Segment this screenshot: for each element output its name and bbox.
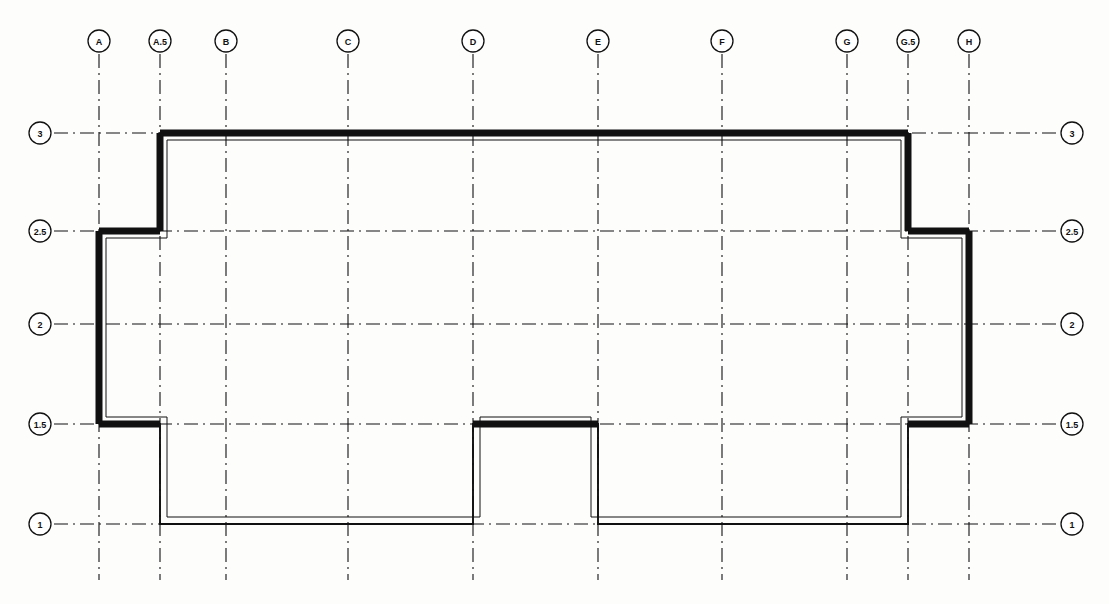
grid-bubble-row-left-1-5[interactable]: 1.5 — [29, 413, 51, 435]
grid-bubble-label: G — [843, 37, 850, 47]
grid-bubble-label: A — [96, 37, 103, 47]
floor-plan-canvas: AA.5BCDEFGG.5H 32.521.51 32.521.51 — [0, 0, 1109, 604]
grid-bubble-row-left-2-5[interactable]: 2.5 — [29, 220, 51, 242]
grid-bubble-label: 2.5 — [34, 227, 47, 237]
grid-bubble-label: C — [345, 37, 352, 47]
grid-bubble-label: 3 — [37, 129, 42, 139]
grid-bubble-column-A-5[interactable]: A.5 — [149, 30, 171, 52]
grid-bubble-label: A.5 — [153, 37, 167, 47]
grid-bubble-label: 1 — [37, 520, 42, 530]
grid-bubble-label: 3 — [1069, 129, 1074, 139]
grid-bubble-label: E — [595, 37, 601, 47]
grid-bubble-column-G-5[interactable]: G.5 — [897, 30, 919, 52]
grid-bubble-label: B — [223, 37, 230, 47]
grid-bubble-column-E[interactable]: E — [587, 30, 609, 52]
grid-bubble-label: 1.5 — [34, 420, 47, 430]
grid-bubble-column-C[interactable]: C — [337, 30, 359, 52]
grid-bubble-label: 2 — [37, 320, 42, 330]
grid-bubble-row-left-1[interactable]: 1 — [29, 513, 51, 535]
grid-bubble-row-right-2-5[interactable]: 2.5 — [1061, 220, 1083, 242]
grid-bubble-column-H[interactable]: H — [958, 30, 980, 52]
drawing-sheet-background — [0, 0, 1109, 604]
grid-bubble-column-D[interactable]: D — [462, 30, 484, 52]
grid-bubble-label: D — [470, 37, 477, 47]
grid-bubble-label: F — [719, 37, 725, 47]
grid-bubble-column-B[interactable]: B — [215, 30, 237, 52]
grid-bubble-row-left-3[interactable]: 3 — [29, 122, 51, 144]
grid-bubble-row-right-1-5[interactable]: 1.5 — [1061, 413, 1083, 435]
grid-bubble-column-G[interactable]: G — [836, 30, 858, 52]
grid-bubble-label: G.5 — [901, 37, 916, 47]
grid-bubble-label: 2.5 — [1066, 227, 1079, 237]
grid-bubble-label: 1 — [1069, 520, 1074, 530]
floor-plan-drawing: AA.5BCDEFGG.5H 32.521.51 32.521.51 — [0, 0, 1109, 604]
grid-bubble-column-A[interactable]: A — [88, 30, 110, 52]
grid-bubble-row-right-1[interactable]: 1 — [1061, 513, 1083, 535]
grid-bubble-column-F[interactable]: F — [711, 30, 733, 52]
grid-bubble-row-left-2[interactable]: 2 — [29, 313, 51, 335]
grid-bubble-label: 1.5 — [1066, 420, 1079, 430]
grid-bubble-row-right-2[interactable]: 2 — [1061, 313, 1083, 335]
grid-bubble-row-right-3[interactable]: 3 — [1061, 122, 1083, 144]
grid-bubble-label: 2 — [1069, 320, 1074, 330]
grid-bubble-label: H — [966, 37, 973, 47]
